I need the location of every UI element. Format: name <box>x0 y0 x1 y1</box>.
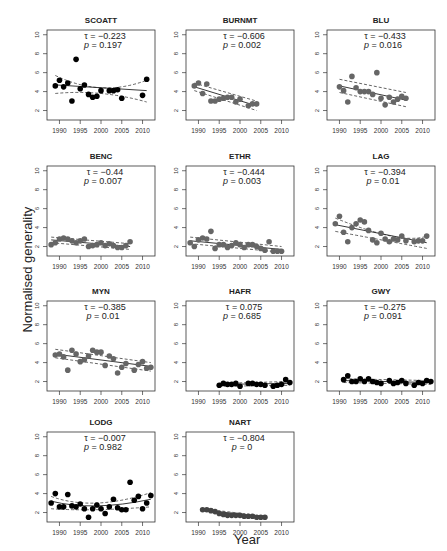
svg-text:10: 10 <box>314 302 320 309</box>
svg-text:2010: 2010 <box>274 398 289 405</box>
svg-text:SCOATT: SCOATT <box>85 16 117 25</box>
svg-text:4: 4 <box>173 225 179 229</box>
svg-text:2010: 2010 <box>274 127 289 134</box>
svg-text:10: 10 <box>314 167 320 174</box>
svg-text:2010: 2010 <box>415 263 430 270</box>
y-axis-label: Normalised generality <box>20 205 35 335</box>
svg-text:BLU: BLU <box>373 16 390 25</box>
svg-text:6: 6 <box>173 472 179 476</box>
svg-text:10: 10 <box>173 31 179 38</box>
svg-text:8: 8 <box>314 187 320 191</box>
svg-text:p = 0.091: p = 0.091 <box>363 311 402 321</box>
svg-text:LODG: LODG <box>89 418 112 427</box>
svg-text:2000: 2000 <box>233 263 248 270</box>
svg-text:1990: 1990 <box>191 529 206 536</box>
svg-text:2000: 2000 <box>374 263 389 270</box>
svg-text:2005: 2005 <box>254 263 269 270</box>
svg-text:8: 8 <box>314 51 320 55</box>
svg-text:2: 2 <box>34 510 40 514</box>
svg-text:MYN: MYN <box>92 287 110 296</box>
svg-text:LAG: LAG <box>373 152 390 161</box>
svg-text:6: 6 <box>314 206 320 210</box>
svg-text:6: 6 <box>314 341 320 345</box>
svg-text:2010: 2010 <box>274 263 289 270</box>
panel-scoatt: SCOATT24681019901995200020052010τ = −0.2… <box>34 16 155 134</box>
svg-text:2005: 2005 <box>254 398 269 405</box>
panel-ethr: ETHR24681019901995200020052010τ = −0.444… <box>173 152 294 270</box>
svg-text:p = 0.01: p = 0.01 <box>86 311 120 321</box>
svg-text:p = 0.002: p = 0.002 <box>222 40 261 50</box>
small-multiples-figure: SCOATT24681019901995200020052010τ = −0.2… <box>0 0 447 551</box>
svg-text:1995: 1995 <box>353 127 368 134</box>
svg-text:1995: 1995 <box>73 127 88 134</box>
svg-text:4: 4 <box>34 360 40 364</box>
svg-text:1995: 1995 <box>353 398 368 405</box>
svg-text:8: 8 <box>173 322 179 326</box>
svg-text:1995: 1995 <box>212 529 227 536</box>
svg-text:1990: 1990 <box>332 263 347 270</box>
svg-text:p = 0.007: p = 0.007 <box>83 176 122 186</box>
svg-text:2005: 2005 <box>115 127 130 134</box>
svg-text:BENC: BENC <box>90 152 113 161</box>
panel-nart: NART24681019901995200020052010τ = −0.804… <box>173 418 294 536</box>
svg-text:2000: 2000 <box>233 127 248 134</box>
svg-text:1990: 1990 <box>191 127 206 134</box>
svg-text:2010: 2010 <box>135 263 150 270</box>
svg-text:4: 4 <box>314 225 320 229</box>
svg-text:2: 2 <box>34 379 40 383</box>
panel-lag: LAG24681019901995200020052010τ = −0.394p… <box>314 152 435 270</box>
svg-text:6: 6 <box>173 206 179 210</box>
svg-text:2: 2 <box>314 108 320 112</box>
svg-text:2005: 2005 <box>115 529 130 536</box>
svg-text:10: 10 <box>34 167 40 174</box>
svg-text:2005: 2005 <box>395 263 410 270</box>
svg-text:2000: 2000 <box>233 398 248 405</box>
svg-text:NART: NART <box>229 418 251 427</box>
svg-text:1990: 1990 <box>52 127 67 134</box>
svg-text:4: 4 <box>34 491 40 495</box>
svg-text:2: 2 <box>314 379 320 383</box>
svg-text:4: 4 <box>173 360 179 364</box>
svg-text:2000: 2000 <box>94 529 109 536</box>
svg-text:6: 6 <box>34 341 40 345</box>
svg-text:2: 2 <box>34 108 40 112</box>
svg-text:2000: 2000 <box>94 398 109 405</box>
svg-text:6: 6 <box>173 70 179 74</box>
svg-text:1995: 1995 <box>353 263 368 270</box>
svg-text:6: 6 <box>34 70 40 74</box>
svg-text:1990: 1990 <box>191 398 206 405</box>
panel-benc: BENC24681019901995200020052010τ = −0.44p… <box>34 152 155 270</box>
svg-text:6: 6 <box>34 472 40 476</box>
svg-text:8: 8 <box>34 187 40 191</box>
svg-text:1990: 1990 <box>52 529 67 536</box>
svg-text:1990: 1990 <box>52 263 67 270</box>
svg-text:1995: 1995 <box>73 529 88 536</box>
svg-text:8: 8 <box>34 453 40 457</box>
svg-text:2005: 2005 <box>395 398 410 405</box>
panel-lodg: LODG24681019901995200020052010τ = −0.007… <box>34 418 155 536</box>
svg-text:1995: 1995 <box>212 263 227 270</box>
svg-text:p = 0.016: p = 0.016 <box>363 40 402 50</box>
svg-text:2: 2 <box>314 244 320 248</box>
svg-text:2: 2 <box>173 379 179 383</box>
svg-text:1990: 1990 <box>191 263 206 270</box>
svg-text:10: 10 <box>173 302 179 309</box>
svg-text:2010: 2010 <box>135 398 150 405</box>
svg-text:8: 8 <box>173 187 179 191</box>
svg-text:2000: 2000 <box>94 127 109 134</box>
svg-text:10: 10 <box>34 31 40 38</box>
panel-myn: MYN24681019901995200020052010τ = −0.385p… <box>34 287 155 405</box>
x-axis-label: Year <box>234 532 260 547</box>
panel-hafr: HAFR24681019901995200020052010τ = 0.075p… <box>173 287 294 405</box>
svg-text:2010: 2010 <box>135 529 150 536</box>
svg-text:2: 2 <box>173 108 179 112</box>
svg-text:2010: 2010 <box>415 127 430 134</box>
svg-text:10: 10 <box>173 167 179 174</box>
svg-text:2: 2 <box>173 244 179 248</box>
svg-text:6: 6 <box>314 70 320 74</box>
svg-text:2005: 2005 <box>115 398 130 405</box>
svg-text:8: 8 <box>173 453 179 457</box>
svg-text:2010: 2010 <box>135 127 150 134</box>
panel-gwy: GWY24681019901995200020052010τ = −0.275p… <box>314 287 435 405</box>
svg-text:p = 0: p = 0 <box>231 442 252 452</box>
